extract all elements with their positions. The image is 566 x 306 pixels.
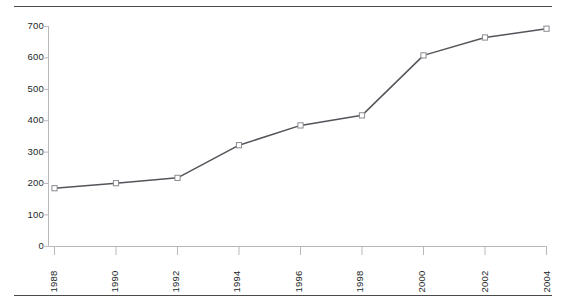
- data-point-1988: [52, 186, 57, 191]
- data-point-2002: [482, 35, 487, 40]
- line-chart-figure: 700 600 500 400 300 200 100 0 1988 1990 …: [0, 0, 566, 306]
- data-point-1990: [113, 181, 118, 186]
- x-axis-ticks: [55, 247, 547, 256]
- y-axis-ticks: [42, 27, 49, 247]
- data-point-1998: [359, 113, 364, 118]
- data-point-1992: [175, 175, 180, 180]
- data-point-1994: [236, 143, 241, 148]
- series-markers: [52, 26, 549, 191]
- data-point-1996: [298, 123, 303, 128]
- data-point-2000: [421, 53, 426, 58]
- plot-area: [0, 0, 566, 306]
- series-line: [55, 29, 547, 189]
- data-point-2004: [544, 26, 549, 31]
